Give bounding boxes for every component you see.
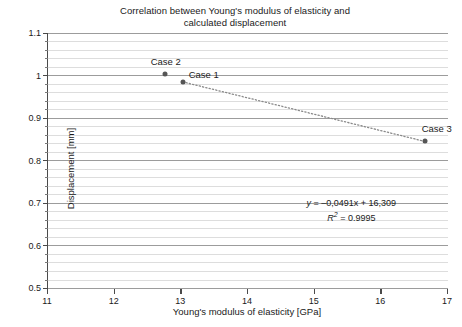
trendline bbox=[48, 33, 448, 288]
x-tick-label: 11 bbox=[42, 296, 51, 306]
y-tick-label: 0.8 bbox=[28, 156, 41, 166]
y-tick-label: 0.9 bbox=[28, 113, 41, 123]
y-tick-label: 1 bbox=[36, 71, 41, 81]
y-tick-label: 1.1 bbox=[28, 28, 41, 38]
y-tick-label: 0.6 bbox=[28, 241, 41, 251]
x-tick-major bbox=[47, 289, 48, 294]
chart-title: Correlation between Young's modulus of e… bbox=[60, 5, 410, 29]
data-layer: Case 2Case 1Case 3y = –0,0491x + 16,309R… bbox=[48, 33, 448, 288]
equation-line: y = –0,0491x + 16,309 bbox=[307, 197, 397, 209]
chart-container: Correlation between Young's modulus of e… bbox=[0, 0, 462, 327]
data-point-marker bbox=[180, 79, 185, 84]
x-tick-label: 14 bbox=[242, 296, 252, 306]
x-tick-major bbox=[247, 289, 248, 294]
r-squared-line: R2 = 0.9995 bbox=[307, 209, 397, 224]
x-tick-major bbox=[114, 289, 115, 294]
plot-area: 0.50.60.70.80.911.1 Case 2Case 1Case 3y … bbox=[47, 33, 448, 289]
data-point-label: Case 3 bbox=[422, 123, 452, 134]
x-tick-label: 17 bbox=[442, 296, 452, 306]
x-tick-major bbox=[380, 289, 381, 294]
x-tick-label: 13 bbox=[175, 296, 185, 306]
data-point-marker bbox=[422, 139, 427, 144]
x-tick-major bbox=[447, 289, 448, 294]
y-tick-label: 0.5 bbox=[28, 283, 41, 293]
chart-title-line-1: Correlation between Young's modulus of e… bbox=[60, 5, 410, 17]
x-tick-major bbox=[180, 289, 181, 294]
data-point-marker bbox=[162, 72, 167, 77]
x-tick-label: 15 bbox=[309, 296, 319, 306]
y-axis-title: Displacement [mm] bbox=[65, 99, 76, 239]
x-tick-label: 16 bbox=[375, 296, 385, 306]
x-tick-label: 12 bbox=[109, 296, 119, 306]
x-tick-major bbox=[314, 289, 315, 294]
chart-title-line-2: calculated displacement bbox=[60, 17, 410, 29]
y-tick-label: 0.7 bbox=[28, 198, 41, 208]
data-point-label: Case 1 bbox=[189, 68, 219, 79]
x-axis-title: Young's modulus of elasticity [GPa] bbox=[47, 306, 447, 317]
trendline-equation-annotation: y = –0,0491x + 16,309R2 = 0.9995 bbox=[307, 197, 397, 224]
data-point-label: Case 2 bbox=[151, 56, 181, 67]
